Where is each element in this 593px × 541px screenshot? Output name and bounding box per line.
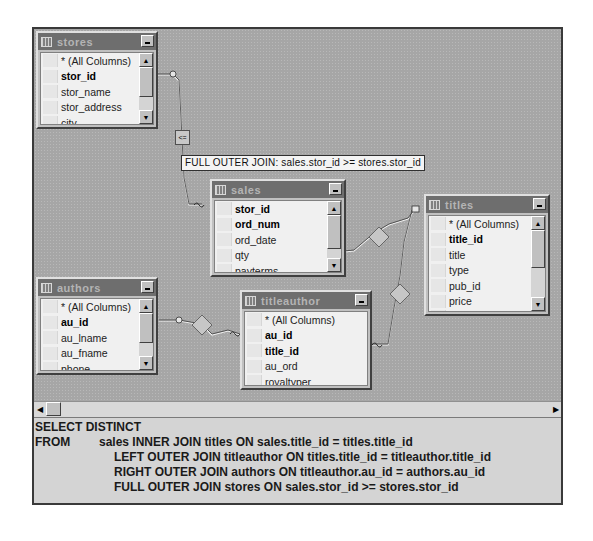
scroll-thumb[interactable]: [327, 215, 341, 249]
column-checkbox[interactable]: [43, 116, 58, 125]
column-row[interactable]: * (All Columns): [245, 312, 367, 328]
column-checkbox[interactable]: [43, 101, 58, 114]
scroll-thumb[interactable]: [46, 402, 61, 416]
column-row[interactable]: au_ord: [245, 359, 367, 375]
column-row[interactable]: au_fname: [41, 346, 153, 362]
column-list[interactable]: * (All Columns) stor_id stor_name stor_a…: [40, 52, 154, 125]
column-checkbox[interactable]: [431, 217, 446, 230]
table-title: titles: [445, 199, 474, 211]
column-checkbox[interactable]: [43, 70, 58, 83]
column-row[interactable]: city: [41, 115, 153, 125]
column-checkbox[interactable]: [43, 54, 58, 67]
column-row[interactable]: au_lname: [41, 330, 153, 346]
column-checkbox[interactable]: [431, 310, 446, 312]
scroll-up-icon[interactable]: ▲: [139, 53, 153, 67]
table-titleauthor[interactable]: titleauthor * (All Columns) au_id title_…: [240, 290, 372, 390]
column-checkbox[interactable]: [217, 233, 232, 246]
column-list[interactable]: * (All Columns) au_id title_id au_ord ro…: [244, 311, 368, 386]
column-row[interactable]: ord_num: [215, 217, 341, 233]
column-row[interactable]: type: [429, 263, 545, 279]
column-list[interactable]: * (All Columns) au_id au_lname au_fname …: [40, 298, 154, 371]
column-checkbox[interactable]: [43, 316, 58, 329]
scroll-down-icon[interactable]: ▼: [531, 297, 545, 311]
column-checkbox[interactable]: [43, 300, 58, 313]
column-row[interactable]: title_id: [429, 232, 545, 248]
scroll-down-icon[interactable]: ▼: [139, 110, 153, 124]
minimize-icon[interactable]: [141, 281, 154, 293]
column-list[interactable]: stor_id ord_num ord_date qty payterms ▲ …: [214, 200, 342, 273]
column-row[interactable]: title_id: [245, 343, 367, 359]
column-row[interactable]: advance: [429, 309, 545, 312]
column-checkbox[interactable]: [431, 248, 446, 261]
column-row[interactable]: * (All Columns): [41, 53, 153, 69]
column-row[interactable]: qty: [215, 248, 341, 264]
table-title-bar[interactable]: titleauthor: [242, 292, 370, 309]
column-checkbox[interactable]: [217, 202, 232, 215]
table-title-bar[interactable]: authors: [38, 279, 156, 296]
column-checkbox[interactable]: [431, 264, 446, 277]
scroll-up-icon[interactable]: ▲: [531, 216, 545, 230]
sql-pane[interactable]: SELECT DISTINCT FROMsales INNER JOIN tit…: [34, 417, 561, 503]
column-row[interactable]: stor_name: [41, 84, 153, 100]
column-row[interactable]: stor_id: [41, 69, 153, 85]
column-row[interactable]: ord_date: [215, 232, 341, 248]
column-row[interactable]: * (All Columns): [429, 216, 545, 232]
vertical-scrollbar[interactable]: ▲ ▼: [327, 201, 341, 272]
column-row[interactable]: phone: [41, 361, 153, 371]
column-checkbox[interactable]: [431, 233, 446, 246]
table-authors[interactable]: authors * (All Columns) au_id au_lname a…: [36, 277, 158, 375]
vertical-scrollbar[interactable]: ▲ ▼: [139, 53, 153, 124]
column-checkbox[interactable]: [247, 360, 262, 373]
column-row[interactable]: royaltyper: [245, 374, 367, 386]
scroll-down-icon[interactable]: ▼: [327, 258, 341, 272]
minimize-icon[interactable]: [329, 183, 342, 195]
table-titles[interactable]: titles * (All Columns) title_id title ty…: [424, 194, 550, 316]
column-checkbox[interactable]: [247, 375, 262, 386]
table-stores[interactable]: stores * (All Columns) stor_id stor_name…: [36, 31, 158, 129]
column-row[interactable]: price: [429, 294, 545, 310]
table-sales[interactable]: sales stor_id ord_num ord_date qty payte…: [210, 179, 346, 277]
scroll-up-icon[interactable]: ▲: [139, 299, 153, 313]
table-grid-icon: [41, 37, 52, 47]
column-row[interactable]: title: [429, 247, 545, 263]
table-title-bar[interactable]: titles: [426, 196, 548, 213]
column-checkbox[interactable]: [247, 313, 262, 326]
minimize-icon[interactable]: [355, 294, 368, 306]
column-checkbox[interactable]: [247, 344, 262, 357]
scroll-thumb[interactable]: [139, 313, 153, 343]
column-row[interactable]: stor_address: [41, 100, 153, 116]
scroll-down-icon[interactable]: ▼: [139, 356, 153, 370]
scroll-thumb[interactable]: [531, 230, 545, 268]
scroll-right-icon[interactable]: ▶: [550, 402, 561, 416]
column-row[interactable]: payterms: [215, 263, 341, 273]
minimize-icon[interactable]: [533, 198, 546, 210]
column-row[interactable]: pub_id: [429, 278, 545, 294]
minimize-icon[interactable]: [141, 35, 154, 47]
diagram-pane[interactable]: <= FULL OUTER JOIN: sales.stor_id >= sto…: [34, 29, 561, 401]
join-symbol-button[interactable]: <=: [175, 130, 190, 145]
scroll-up-icon[interactable]: ▲: [327, 201, 341, 215]
scroll-left-icon[interactable]: ◀: [34, 402, 45, 416]
column-checkbox[interactable]: [43, 331, 58, 344]
column-checkbox[interactable]: [247, 329, 262, 342]
table-title-bar[interactable]: stores: [38, 33, 156, 50]
column-checkbox[interactable]: [217, 218, 232, 231]
column-checkbox[interactable]: [217, 264, 232, 273]
column-row[interactable]: au_id: [245, 328, 367, 344]
horizontal-scrollbar[interactable]: ◀ ▶: [34, 401, 561, 417]
column-checkbox[interactable]: [43, 347, 58, 360]
column-row[interactable]: au_id: [41, 315, 153, 331]
column-checkbox[interactable]: [431, 295, 446, 308]
column-row[interactable]: * (All Columns): [41, 299, 153, 315]
join-diamond-icon: [369, 227, 389, 247]
column-checkbox[interactable]: [43, 362, 58, 371]
table-title-bar[interactable]: sales: [212, 181, 344, 198]
vertical-scrollbar[interactable]: ▲ ▼: [531, 216, 545, 311]
column-list[interactable]: * (All Columns) title_id title type pub_…: [428, 215, 546, 312]
column-checkbox[interactable]: [43, 85, 58, 98]
column-checkbox[interactable]: [431, 279, 446, 292]
column-row[interactable]: stor_id: [215, 201, 341, 217]
scroll-thumb[interactable]: [139, 67, 153, 97]
vertical-scrollbar[interactable]: ▲ ▼: [139, 299, 153, 370]
column-checkbox[interactable]: [217, 249, 232, 262]
